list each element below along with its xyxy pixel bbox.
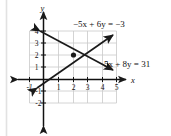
y-tick-label-4: 4	[35, 27, 39, 36]
intersection-point	[71, 52, 76, 57]
equation-label-1: −5x + 6y = −3	[73, 19, 125, 29]
x-tick-label-4: 4	[101, 83, 105, 92]
x-axis-label: x	[130, 75, 135, 85]
y-tick-label-2: 2	[35, 51, 39, 60]
x-tick-label-5: 5	[115, 83, 119, 92]
x-tick-label-2: 2	[72, 83, 76, 92]
x-tick-label-neg1: -1	[26, 83, 32, 92]
y-tick-label-1: 1	[35, 63, 39, 72]
y-tick-label-3: 3	[35, 39, 39, 48]
equation-label-2: 5x + 8y = 31	[104, 59, 150, 69]
y-axis-label: y	[40, 3, 45, 13]
y-tick-label-neg2: -2	[35, 99, 41, 108]
y-tick-label-neg1: -1	[35, 87, 41, 96]
x-tick-label-3: 3	[86, 83, 90, 92]
coordinate-plane-svg: -1 1 2 3 4 5 4 3 2 1 -1 -2 y x −5x + 6y …	[0, 0, 171, 136]
graph-figure: -1 1 2 3 4 5 4 3 2 1 -1 -2 y x −5x + 6y …	[0, 0, 171, 136]
x-tick-label-1: 1	[57, 83, 61, 92]
